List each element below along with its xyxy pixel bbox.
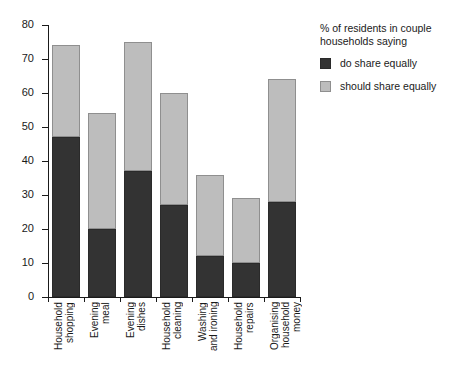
bar-segment-should-share-equally	[88, 113, 117, 229]
x-axis-label-7: Organisinghouseholdmoney	[269, 302, 302, 368]
y-axis-tick-label: 0	[0, 291, 34, 302]
legend-label-should-share-equally: should share equally	[340, 80, 436, 93]
bar-3	[124, 42, 153, 297]
bar-1	[52, 45, 81, 297]
y-axis-tick-label: 30	[0, 189, 34, 200]
bar-segment-do-share-equally	[88, 229, 117, 297]
x-axis-label-line: repairs	[244, 302, 255, 368]
x-axis-label-line: Household	[161, 302, 172, 368]
bar-4	[160, 93, 189, 297]
stacked-bar-chart: 01020304050607080 HouseholdshoppingEveni…	[0, 0, 458, 370]
bar-2	[88, 113, 117, 297]
x-axis-label-line: Washing	[197, 302, 208, 368]
bar-segment-do-share-equally	[232, 263, 261, 297]
x-axis-label-2: Eveningmeal	[89, 302, 111, 368]
bar-6	[232, 198, 261, 297]
x-axis-label-5: Washingand ironing	[197, 302, 219, 368]
legend-item-do-share-equally: do share equally	[320, 57, 454, 70]
bar-5	[196, 175, 225, 297]
x-axis-label-line: Evening	[89, 302, 100, 368]
x-axis-label-1: Householdshopping	[53, 302, 75, 368]
x-axis-label-6: Householdrepairs	[233, 302, 255, 368]
x-axis-label-line: Evening	[125, 302, 136, 368]
legend-item-should-share-equally: should share equally	[320, 80, 454, 93]
x-axis-label-line: Organising	[269, 302, 280, 368]
y-axis-tick-label: 50	[0, 121, 34, 132]
y-axis-tick-label: 40	[0, 155, 34, 166]
chart-legend: % of residents in couple households sayi…	[320, 22, 454, 103]
plot-area	[48, 25, 300, 297]
bar-segment-should-share-equally	[52, 45, 81, 137]
y-axis-tick-label: 70	[0, 53, 34, 64]
y-axis-tick-label: 60	[0, 87, 34, 98]
bar-segment-should-share-equally	[196, 175, 225, 257]
x-axis-label-3: Eveningdishes	[125, 302, 147, 368]
x-axis-label-line: dishes	[136, 302, 147, 368]
bar-segment-do-share-equally	[268, 202, 297, 297]
bar-segment-do-share-equally	[196, 256, 225, 297]
bar-segment-do-share-equally	[52, 137, 81, 297]
x-axis-labels: HouseholdshoppingEveningmealEveningdishe…	[48, 302, 301, 370]
x-axis-label-line: cleaning	[172, 302, 183, 368]
legend-title: % of residents in couple households sayi…	[320, 22, 448, 48]
y-axis-tick-label: 80	[0, 19, 34, 30]
bar-segment-should-share-equally	[232, 198, 261, 263]
y-axis-tick-label: 10	[0, 257, 34, 268]
bar-segment-do-share-equally	[124, 171, 153, 297]
x-axis-label-line: Household	[233, 302, 244, 368]
x-axis-label-line: shopping	[64, 302, 75, 368]
legend-swatch-light	[320, 81, 331, 92]
x-axis-label-line: money	[291, 302, 302, 368]
bar-segment-do-share-equally	[160, 205, 189, 297]
x-axis-label-line: and ironing	[208, 302, 219, 368]
x-axis-label-line: household	[280, 302, 291, 368]
x-axis-label-4: Householdcleaning	[161, 302, 183, 368]
x-axis-label-line: meal	[100, 302, 111, 368]
bar-segment-should-share-equally	[268, 79, 297, 201]
y-axis-tick-label: 20	[0, 223, 34, 234]
bar-segment-should-share-equally	[160, 93, 189, 205]
x-axis-label-line: Household	[53, 302, 64, 368]
legend-swatch-dark	[320, 58, 331, 69]
bar-segment-should-share-equally	[124, 42, 153, 171]
legend-label-do-share-equally: do share equally	[340, 57, 417, 70]
bar-7	[268, 79, 297, 297]
